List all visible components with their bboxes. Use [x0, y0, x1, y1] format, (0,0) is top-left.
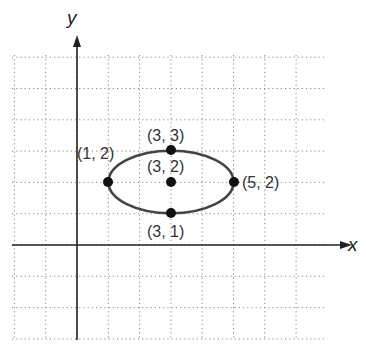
- grid-lines: [12, 55, 325, 340]
- point-3-2-center: [166, 177, 176, 187]
- label-3-2: (3, 2): [147, 158, 184, 175]
- point-3-3: [166, 145, 176, 155]
- point-3-1: [166, 208, 176, 218]
- label-1-2: (1, 2): [77, 145, 114, 162]
- y-axis-arrow-icon: [73, 35, 81, 47]
- x-axis-label: x: [347, 234, 359, 255]
- point-1-2: [103, 177, 113, 187]
- x-axis: [12, 241, 352, 249]
- label-3-1: (3, 1): [147, 223, 184, 240]
- label-5-2: (5, 2): [242, 174, 279, 191]
- y-axis-label: y: [65, 7, 78, 28]
- y-axis: [73, 35, 81, 340]
- coordinate-plane: x y (3, 3) (3, 2) (1, 2) (5, 2) (3, 1): [0, 0, 366, 350]
- point-5-2: [229, 177, 239, 187]
- label-3-3: (3, 3): [147, 127, 184, 144]
